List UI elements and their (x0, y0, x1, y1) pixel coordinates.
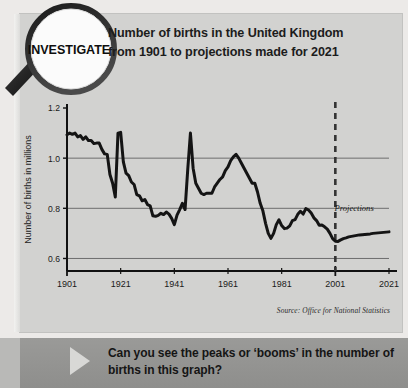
question-line-1: Can you see the peaks or ‘booms’ in the … (108, 346, 394, 360)
y-axis-label: Number of births in millions (23, 135, 33, 244)
infographic-root: INVESTIGATE Number of births in the Unit… (0, 0, 408, 388)
question-banner: Can you see the peaks or ‘booms’ in the … (20, 338, 408, 388)
births-series-line (67, 132, 389, 241)
x-tick-label: 1981 (272, 279, 292, 289)
x-tick-label: 2021 (379, 279, 399, 289)
question-line-2: births in this graph? (108, 363, 222, 377)
x-tick-label: 1961 (218, 279, 238, 289)
chart-source: Source: Office for National Statistics (277, 306, 390, 315)
title-line-1: Number of births in the United Kingdom (108, 24, 390, 43)
triangle-bullet-icon (70, 347, 90, 375)
y-tick-label: 1.2 (48, 103, 60, 113)
y-tick-label: 1.0 (48, 154, 60, 164)
births-line-chart: Number of births in millions1.21.00.80.6… (20, 96, 402, 296)
page-title: Number of births in the United Kingdom f… (108, 24, 390, 62)
banner-left-edge (0, 338, 20, 388)
x-tick-label: 1921 (111, 279, 131, 289)
x-tick-label: 2001 (325, 279, 345, 289)
projections-label: Projections (333, 203, 374, 213)
y-tick-label: 0.8 (48, 204, 60, 214)
x-tick-label: 1901 (57, 279, 77, 289)
y-tick-label: 0.6 (48, 254, 60, 264)
badge-label: INVESTIGATE (28, 43, 110, 57)
x-tick-label: 1941 (164, 279, 184, 289)
title-line-2: from 1901 to projections made for 2021 (108, 43, 390, 62)
